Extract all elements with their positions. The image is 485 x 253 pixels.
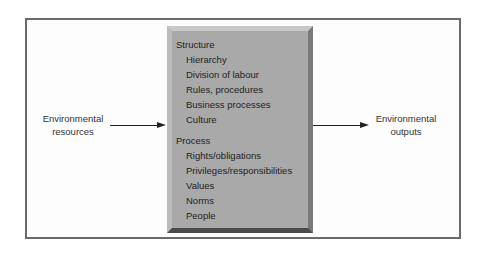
list-item: Business processes: [176, 97, 292, 112]
input-label-line1: Environmental: [37, 112, 109, 125]
output-label-line2: outputs: [370, 125, 442, 138]
list-item: Rights/obligations: [176, 148, 292, 163]
list-item: Rules, procedures: [176, 82, 292, 97]
section-title-structure: Structure: [176, 37, 292, 52]
input-label-line2: resources: [37, 125, 109, 138]
output-arrow-line: [313, 125, 363, 126]
input-arrow-line: [110, 125, 160, 126]
input-label: Environmental resources: [37, 112, 109, 138]
section-title-process: Process: [176, 133, 292, 148]
list-item: People: [176, 208, 292, 223]
list-item: Privileges/responsibilities: [176, 163, 292, 178]
list-item: Division of labour: [176, 67, 292, 82]
organization-box: Structure Hierarchy Division of labour R…: [167, 26, 313, 233]
list-item: Values: [176, 178, 292, 193]
input-arrowhead-icon: [157, 122, 166, 128]
output-label-line1: Environmental: [370, 112, 442, 125]
list-item: Norms: [176, 193, 292, 208]
output-arrowhead-icon: [360, 122, 369, 128]
list-item: Culture: [176, 112, 292, 127]
output-label: Environmental outputs: [370, 112, 442, 138]
list-item: Hierarchy: [176, 52, 292, 67]
